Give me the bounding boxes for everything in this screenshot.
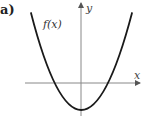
x-axis-label: x <box>134 69 141 82</box>
graph-canvas: y x f(x) <box>0 0 143 116</box>
function-graph-figure: a) y x f(x) <box>0 0 143 116</box>
function-label: f(x) <box>42 18 62 31</box>
y-axis-label: y <box>85 2 93 15</box>
